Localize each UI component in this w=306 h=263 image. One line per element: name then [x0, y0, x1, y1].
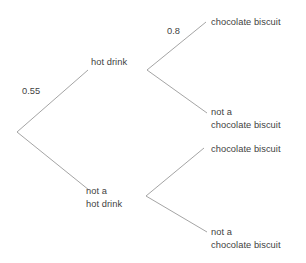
leaf-label-chocolate-biscuit-1: chocolate biscuit	[211, 16, 281, 29]
node-label-not-a-hot-drink: not a hot drink	[86, 185, 122, 210]
probability-tree-diagram: 0.55 0.8 hot drink not a hot drink choco…	[0, 0, 306, 263]
node-label-hot-drink: hot drink	[91, 56, 127, 69]
tree-branches	[0, 0, 306, 263]
branch-nothot-to-biscuit	[146, 148, 204, 196]
branch-root-to-not-hot-drink	[17, 132, 89, 190]
leaf-label-not-a-chocolate-biscuit-2: not a chocolate biscuit	[211, 226, 281, 251]
leaf-label-chocolate-biscuit-2: chocolate biscuit	[211, 143, 281, 156]
branch-hot-to-not-biscuit	[147, 70, 207, 113]
probability-label-hot-drink: 0.55	[22, 85, 40, 97]
probability-label-chocolate-biscuit: 0.8	[167, 25, 180, 37]
branch-nothot-to-not-biscuit	[146, 196, 207, 232]
leaf-label-not-a-chocolate-biscuit-1: not a chocolate biscuit	[211, 106, 281, 131]
branch-root-to-hot-drink	[17, 70, 88, 132]
